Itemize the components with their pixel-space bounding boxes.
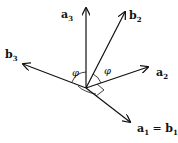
label-b2: b2 (129, 9, 142, 24)
right-angle-marker (96, 84, 104, 96)
label-a3: a3 (61, 8, 73, 23)
label-b3: b3 (5, 48, 18, 63)
label-a2: a2 (156, 66, 168, 81)
label-a1-equals-b1: a1 = b1 (137, 122, 178, 137)
angle-arc-right (93, 74, 101, 83)
vector-diagram: a3 b2 b3 a2 a1 = b1 φ φ (0, 0, 178, 143)
label-phi-left: φ (72, 67, 79, 78)
label-phi-right: φ (104, 65, 111, 76)
